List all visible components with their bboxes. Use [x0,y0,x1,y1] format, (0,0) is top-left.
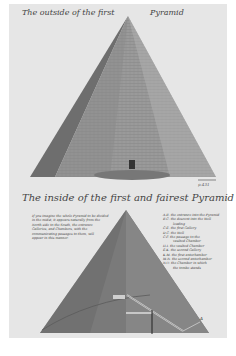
outside-pyramid [30,16,216,180]
left-legend: If you imagine the whole Pyramid to be d… [32,214,112,240]
pyramid-illustrations [0,0,236,356]
page-number: p.431 [198,182,209,187]
right-legend: A.B. the entrance into the Pyramid B.C. … [163,213,223,270]
label-a: A [200,316,203,321]
outside-title-pyramid: Pyramid [150,8,184,17]
legend-line: appear in this manner. [32,236,112,240]
legend-line: the tombe stands [163,266,223,270]
inside-title: The inside of the first and fairest Pyra… [22,192,234,203]
outside-title: The outside of the first [22,8,114,17]
